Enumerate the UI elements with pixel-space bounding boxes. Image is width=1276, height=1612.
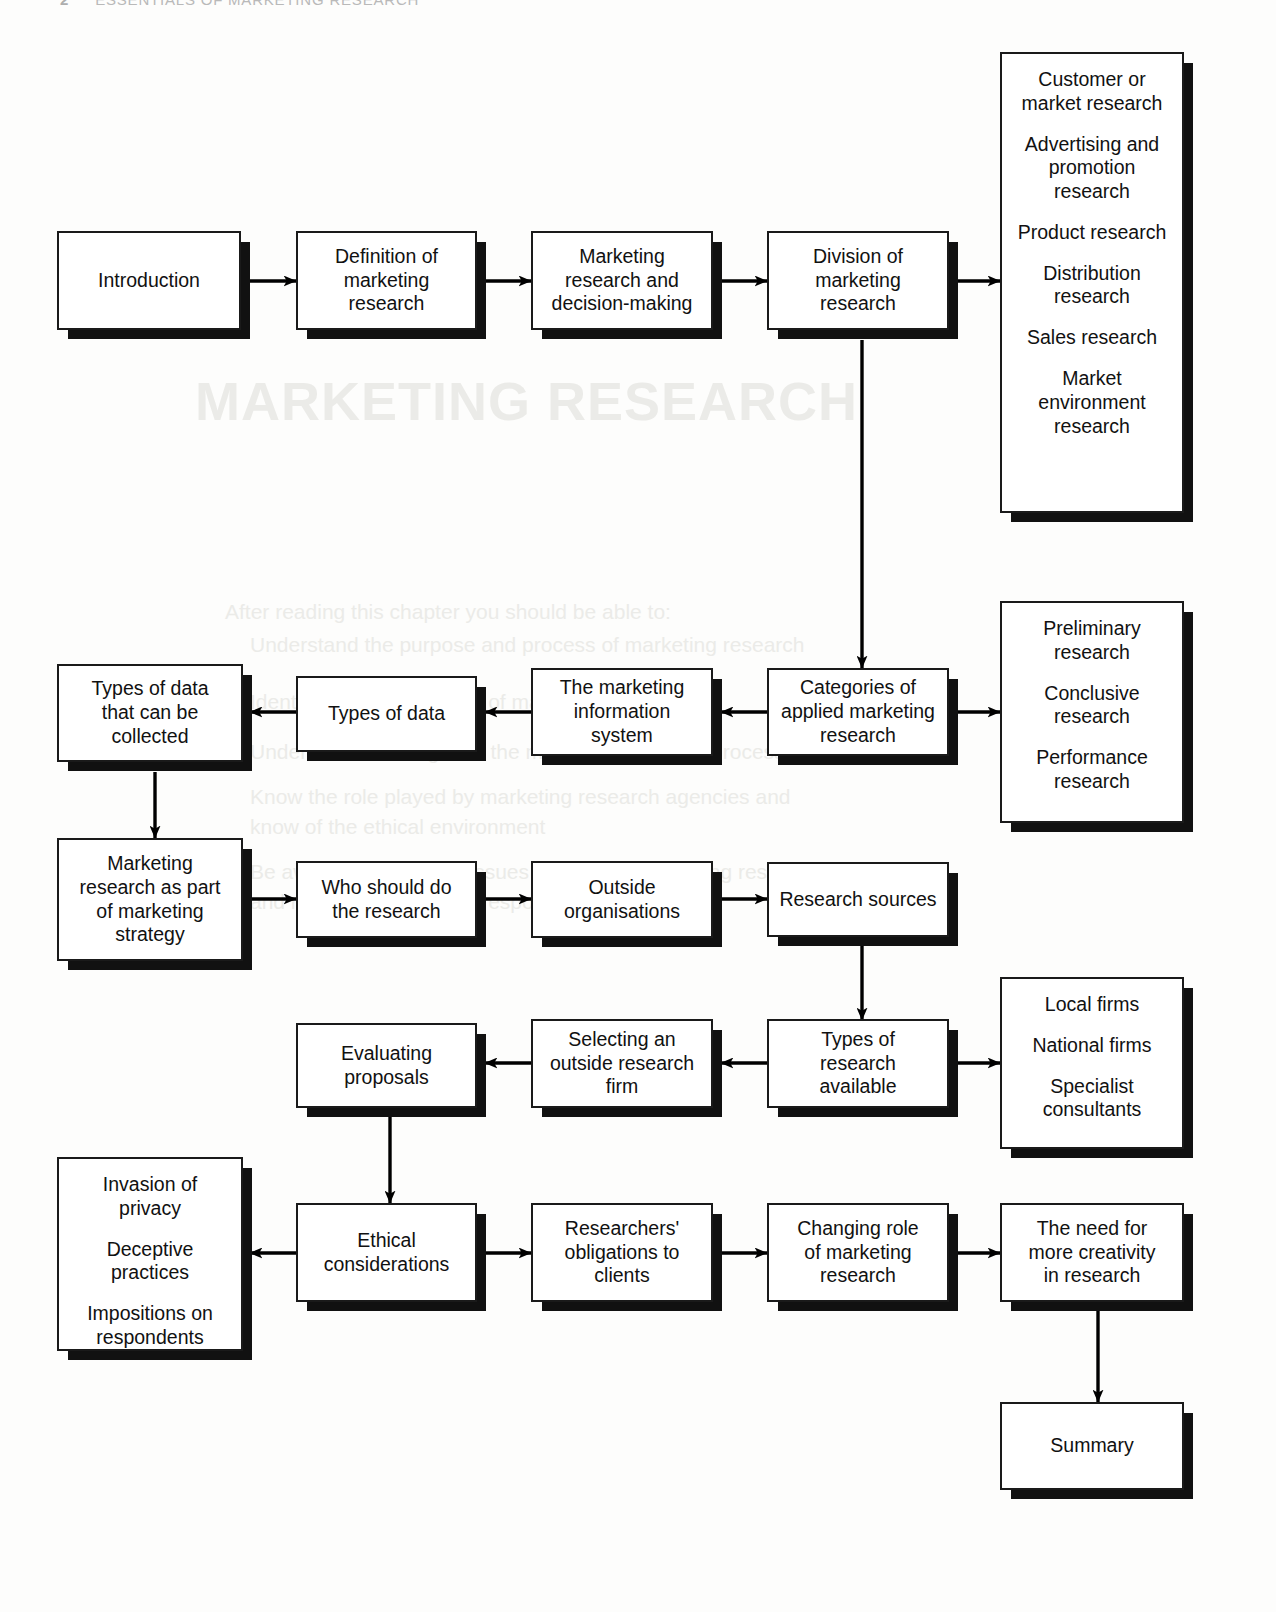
node-marketing-strategy[interactable]: Marketing research as part of marketing … [57, 838, 243, 961]
node-need-for-creativity[interactable]: The need for more creativity in research [1000, 1203, 1184, 1302]
box-shadow-right [949, 1214, 958, 1311]
node-line: the research [332, 900, 440, 924]
box-shadow-right [243, 1168, 252, 1360]
box-shadow-bottom [542, 938, 722, 947]
node-decision-making[interactable]: Marketing research and decision-making [531, 231, 713, 330]
list-line: Deceptive [107, 1238, 194, 1262]
node-line: marketing [344, 269, 430, 293]
node-line: Definition of [335, 245, 438, 269]
list-entry: Impositions on respondents [87, 1302, 213, 1350]
node-line: proposals [344, 1066, 429, 1090]
list-entry: Customer or market research [1022, 68, 1163, 116]
node-definition[interactable]: Definition of marketing research [296, 231, 477, 330]
node-changing-role[interactable]: Changing role of marketing research [767, 1203, 949, 1302]
list-line: consultants [1043, 1098, 1142, 1122]
node-line: decision-making [552, 292, 693, 316]
box-shadow-bottom [307, 938, 486, 947]
node-line: that can be [102, 701, 199, 725]
node-types-of-research-available[interactable]: Types of research available [767, 1019, 949, 1108]
node-line: clients [594, 1264, 649, 1288]
box-shadow-right [949, 242, 958, 339]
node-line: Changing role [797, 1217, 918, 1241]
node-line: Research sources [779, 888, 936, 912]
node-selecting-outside-firm[interactable]: Selecting an outside research firm [531, 1019, 713, 1108]
node-outside-organisations[interactable]: Outside organisations [531, 861, 713, 938]
list-line: environment [1038, 391, 1145, 415]
list-entry: Conclusive research [1044, 682, 1139, 730]
node-line: Outside [588, 876, 655, 900]
list-line: National firms [1032, 1034, 1151, 1058]
node-summary[interactable]: Summary [1000, 1402, 1184, 1490]
node-types-of-data[interactable]: Types of data [296, 676, 477, 752]
node-line: Summary [1050, 1434, 1133, 1458]
box-shadow-bottom [1011, 1490, 1193, 1499]
node-line: collected [112, 725, 189, 749]
box-shadow-bottom [778, 756, 958, 765]
ghost-line-1: Understand the purpose and process of ma… [250, 633, 804, 657]
node-division[interactable]: Division of marketing research [767, 231, 949, 330]
box-shadow-right [713, 1214, 722, 1311]
box-shadow-right [1184, 63, 1193, 522]
node-categories-list[interactable]: Preliminary research Conclusive research… [1000, 601, 1184, 823]
box-shadow-bottom [542, 1302, 722, 1311]
box-shadow-right [477, 687, 486, 761]
box-shadow-bottom [1011, 1302, 1193, 1311]
node-line: of marketing [804, 1241, 911, 1265]
box-shadow-bottom [778, 937, 958, 946]
ghost-line-5: know of the ethical environment [250, 815, 545, 839]
box-shadow-bottom [307, 752, 486, 761]
box-shadow-bottom [778, 1108, 958, 1117]
node-line: Marketing [107, 852, 193, 876]
box-shadow-right [1184, 1413, 1193, 1499]
list-entry: Sales research [1027, 326, 1157, 350]
box-shadow-right [477, 242, 486, 339]
node-line: research [820, 1264, 896, 1288]
node-line: research as part [80, 876, 221, 900]
node-line: Categories of [800, 676, 916, 700]
box-shadow-bottom [68, 1351, 252, 1360]
node-evaluating-proposals[interactable]: Evaluating proposals [296, 1023, 477, 1108]
box-shadow-right [243, 849, 252, 970]
node-categories[interactable]: Categories of applied marketing research [767, 668, 949, 756]
box-shadow-bottom [542, 756, 722, 765]
box-shadow-bottom [307, 1302, 486, 1311]
box-shadow-right [713, 242, 722, 339]
box-shadow-right [243, 675, 252, 771]
node-line: The need for [1037, 1217, 1148, 1241]
box-shadow-right [477, 1214, 486, 1311]
list-line: Sales research [1027, 326, 1157, 350]
node-types-of-data-collected[interactable]: Types of data that can be collected [57, 664, 243, 762]
box-shadow-bottom [1011, 1149, 1193, 1158]
node-ethical-considerations[interactable]: Ethical considerations [296, 1203, 477, 1302]
ghost-title: MARKETING RESEARCH [195, 370, 858, 432]
node-who-should-do-research[interactable]: Who should do the research [296, 861, 477, 938]
node-marketing-information-system[interactable]: The marketing information system [531, 668, 713, 756]
node-line: of marketing [96, 900, 203, 924]
node-researchers-obligations[interactable]: Researchers' obligations to clients [531, 1203, 713, 1302]
box-shadow-bottom [68, 961, 252, 970]
node-line: outside research [550, 1052, 694, 1076]
node-line: obligations to [565, 1241, 680, 1265]
ghost-line-4: Know the role played by marketing resear… [250, 785, 790, 809]
node-research-firm-types-list[interactable]: Local firms National firms Specialist co… [1000, 977, 1184, 1149]
node-line: system [591, 724, 653, 748]
node-research-sources[interactable]: Research sources [767, 862, 949, 937]
box-shadow-right [1184, 988, 1193, 1158]
list-entry: Performance research [1036, 746, 1148, 794]
list-entry: Deceptive practices [107, 1238, 194, 1286]
ghost-line-0: After reading this chapter you should be… [225, 600, 671, 624]
node-introduction[interactable]: Introduction [57, 231, 241, 330]
list-entry: Invasion of privacy [103, 1173, 197, 1221]
node-line: in research [1044, 1264, 1140, 1288]
box-shadow-right [713, 872, 722, 947]
node-label: Introduction [98, 269, 200, 293]
node-line: Who should do [321, 876, 451, 900]
box-shadow-bottom [307, 1108, 486, 1117]
list-line: Specialist [1043, 1075, 1142, 1099]
box-shadow-bottom [778, 1302, 958, 1311]
node-ethical-issues-list[interactable]: Invasion of privacy Deceptive practices … [57, 1157, 243, 1351]
node-division-list[interactable]: Customer or market research Advertising … [1000, 52, 1184, 513]
list-line: Performance [1036, 746, 1148, 770]
node-line: considerations [324, 1253, 450, 1277]
node-line: Researchers' [565, 1217, 679, 1241]
